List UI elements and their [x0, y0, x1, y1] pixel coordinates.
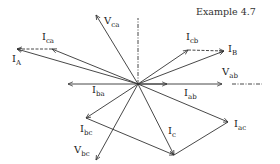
construction-line	[174, 122, 228, 155]
label-i-cb: Icb	[186, 31, 199, 45]
label-i-ca: Ica	[42, 31, 54, 45]
label-i-b: IB	[228, 43, 237, 57]
label-v-bc: Vbc	[73, 144, 90, 158]
label-i-ba: Iba	[92, 84, 105, 98]
label-v-ca: Vca	[103, 15, 119, 29]
label-i-a: IA	[12, 53, 22, 67]
phasor-diagram: VcaIcaIAIcbIBIabVabIbaIacIcIbcVbc Exampl…	[0, 0, 280, 164]
vector-i-c	[138, 84, 174, 155]
label-i-ac: Iac	[234, 118, 246, 132]
construction-line	[188, 50, 224, 51]
example-title: Example 4.7	[196, 6, 256, 17]
vector-i-cb	[138, 50, 188, 84]
vector-i-b	[138, 51, 224, 84]
construction-line	[86, 118, 174, 155]
label-i-c: Ic	[168, 125, 176, 139]
label-i-ab: Iab	[184, 87, 197, 101]
label-v-ab: Vab	[221, 66, 238, 80]
vector-i-ac	[138, 84, 228, 122]
vector-i-ca	[52, 49, 138, 84]
label-i-bc: Ibc	[80, 123, 92, 137]
